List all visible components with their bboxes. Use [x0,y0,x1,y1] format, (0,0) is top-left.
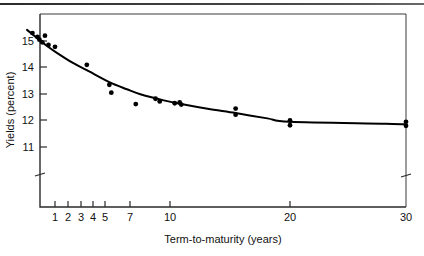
x-tick-label: 4 [90,211,96,223]
fitted-curve [27,30,406,125]
x-tick-label: 1 [52,211,58,223]
chart-figure: 15 14 13 12 11 1 2 3 4 5 7 10 20 30 Term… [0,0,424,256]
data-point [43,33,48,38]
data-point [233,106,238,111]
data-point [153,96,158,101]
data-point [107,82,112,87]
data-point [109,90,114,95]
data-point [179,102,184,107]
y-tick-label: 12 [22,114,34,126]
data-point [288,123,293,128]
data-point [46,43,51,48]
x-tick-label: 20 [284,211,296,223]
x-tick-label: 7 [127,211,133,223]
x-tick-label: 3 [78,211,84,223]
data-point [53,44,58,49]
data-point [288,118,293,123]
data-point [172,101,177,106]
scan-edge-band [0,3,424,5]
fitted-curve-path [27,30,406,125]
x-tick-label: 10 [164,211,176,223]
y-axis-ticks [40,41,47,147]
data-point [233,112,238,117]
data-point [157,99,162,104]
x-axis-title: Term-to-maturity (years) [164,233,281,245]
data-point [40,40,45,45]
data-point [30,31,35,36]
x-tick-label: 30 [400,211,412,223]
y-tick-label: 14 [22,61,34,73]
data-point [84,62,89,67]
data-points [30,31,408,129]
y-tick-label: 11 [23,141,34,153]
y-axis-title: Yields (percent) [4,72,16,149]
y-tick-label: 13 [22,88,34,100]
x-tick-label: 2 [65,211,71,223]
x-tick-label: 5 [102,211,108,223]
y-tick-label: 15 [22,35,34,47]
data-point [133,102,138,107]
data-point [404,123,409,128]
yield-curve-chart: 15 14 13 12 11 1 2 3 4 5 7 10 20 30 Term… [0,0,424,256]
x-axis-ticks [55,201,290,207]
